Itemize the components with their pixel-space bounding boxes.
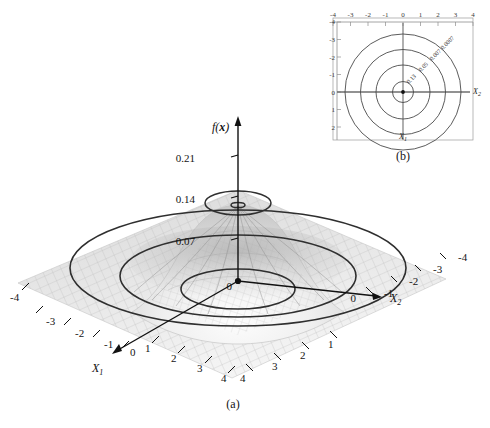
x2-tick-4: 4	[240, 372, 246, 384]
panel-b-left-tick-0: 0	[332, 89, 336, 97]
panel-b-top-tick-0: 0	[401, 11, 405, 19]
panel-b-x2-axis-label: X2	[472, 87, 481, 97]
panel-b-caption: (b)	[396, 149, 410, 163]
x1-tick-4: 4	[221, 372, 227, 384]
f-axis-tick-014: 0.14	[176, 193, 196, 205]
panel-b-left-tick-1: 1	[332, 106, 336, 114]
panel-a-caption: (a)	[226, 397, 239, 411]
panel-b-left-tick-neg3: -3	[329, 36, 335, 44]
x1-tick-0: 0	[130, 346, 136, 358]
x2-tick-1: 1	[328, 338, 334, 350]
figure-svg: f(x) 0.21 0.14 0.07 0 X2 0 -1 -2 -3 -4	[0, 0, 490, 428]
x1-tick-3: 3	[197, 362, 203, 374]
x2-tick-neg3: -3	[433, 263, 443, 275]
x2-tick-0: 0	[351, 292, 357, 304]
panel-b-top-tick-1: 1	[419, 11, 423, 19]
panel-b-top-tick-3: 3	[454, 11, 458, 19]
f-axis-tick-007: 0.07	[176, 235, 196, 247]
panel-b-left-tick-2: 2	[332, 124, 336, 132]
panel-b-left-tick-neg4: -4	[329, 18, 335, 26]
panel-b-top-tick-neg3: -3	[348, 11, 354, 19]
f-axis-label: f(x)	[212, 120, 229, 134]
f-axis-tick-021: 0.21	[176, 152, 195, 164]
figure-root: f(x) 0.21 0.14 0.07 0 X2 0 -1 -2 -3 -4	[0, 0, 490, 428]
panel-b-top-tick-neg2: -2	[365, 11, 371, 19]
panel-b-top-tick-2: 2	[436, 11, 440, 19]
x1-tick-neg1: -1	[104, 338, 113, 350]
x2-tick-3: 3	[272, 360, 278, 372]
panel-b-contour-plot: -4 -3 -2 -1 0 1 2 3 4 -4 -3 -2	[329, 11, 481, 163]
x2-tick-2: 2	[300, 349, 306, 361]
panel-b-left-tick-neg2: -2	[329, 54, 335, 62]
x2-tick-neg2: -2	[409, 275, 418, 287]
panel-b-top-tick-4: 4	[471, 11, 475, 19]
x1-tick-1: 1	[145, 342, 151, 354]
x1-axis-label: X1	[91, 361, 103, 377]
x1-tick-neg4: -4	[10, 291, 20, 303]
x1-tick-neg3: -3	[46, 315, 56, 327]
panel-b-left-tick-neg1: -1	[329, 71, 335, 79]
panel-b-top-tick-neg1: -1	[383, 11, 389, 19]
x2-tick-neg1: -1	[384, 287, 393, 299]
x2-tick-neg4: -4	[458, 251, 468, 263]
x1-tick-2: 2	[171, 352, 177, 364]
x1-tick-neg2: -2	[75, 327, 84, 339]
